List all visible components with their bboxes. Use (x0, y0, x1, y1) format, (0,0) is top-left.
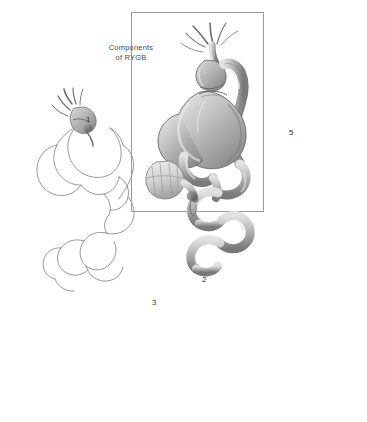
bypassed-stomach-remnant (158, 91, 246, 169)
panel-label-2: 2 (202, 275, 206, 284)
panel-label-3: 3 (152, 298, 156, 307)
main-panel-layer (0, 0, 367, 422)
esophagus-and-sutures (181, 23, 238, 63)
panel-label-1: 1 (86, 115, 90, 124)
panel-label-5: 5 (289, 128, 293, 137)
duodenal-stump (146, 161, 198, 216)
components-of-rygb-caption: Components of RYGB (100, 43, 162, 62)
rygb-components-figure: Components of RYGB 1 2 3 5 (0, 0, 367, 422)
